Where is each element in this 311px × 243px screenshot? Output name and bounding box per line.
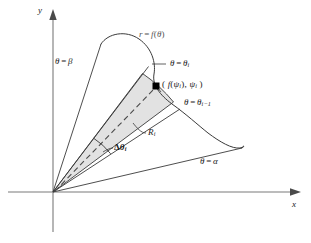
polar-sector-figure: y x r=f(θ) θ=β θ=θi ( f(ψi), ψi ) θ=θi−1… [0,0,311,243]
alpha-label-value: α [213,156,218,166]
theta-im1-label-subscript: i−1 [202,100,212,107]
region-label: Ri [148,128,156,137]
x-axis-label: x [292,200,296,209]
curve-label-equals: = [143,29,151,39]
beta-label-equals: = [60,56,68,66]
theta-i-label-subscript: i [188,61,190,68]
alpha-label-equals: = [205,156,213,166]
theta-equals-alpha-label: θ=α [200,157,218,166]
y-axis-label: y [38,6,42,15]
theta-im1-label-theta: θ [184,97,189,107]
y-axis-arrowhead [49,9,56,20]
theta-equals-theta-i-label: θ=θi [170,59,189,68]
curve-equation-label: r=f(θ) [139,30,165,39]
theta-equals-theta-i-minus-1-label: θ=θi−1 [184,98,211,107]
theta-im1-label-equals: = [189,97,197,107]
point-label-close: ) [197,79,203,89]
axes-group [8,9,301,232]
sample-point-marker [153,83,160,90]
beta-label-theta: θ [55,56,60,66]
delta-theta-label: Δθi [114,143,127,152]
curve-label-close-paren: ) [162,29,165,39]
theta-equals-beta-label: θ=β [55,57,73,66]
theta-i-label-theta: θ [170,58,175,68]
theta-i-label-equals: = [175,58,183,68]
alpha-label-theta: θ [200,156,205,166]
x-axis-arrowhead [290,188,301,195]
delta-theta-label-subscript: i [125,145,127,152]
sample-point-label: ( f(ψi), ψi ) [162,80,203,89]
beta-label-value: β [68,56,73,66]
region-label-subscript: i [154,130,156,137]
